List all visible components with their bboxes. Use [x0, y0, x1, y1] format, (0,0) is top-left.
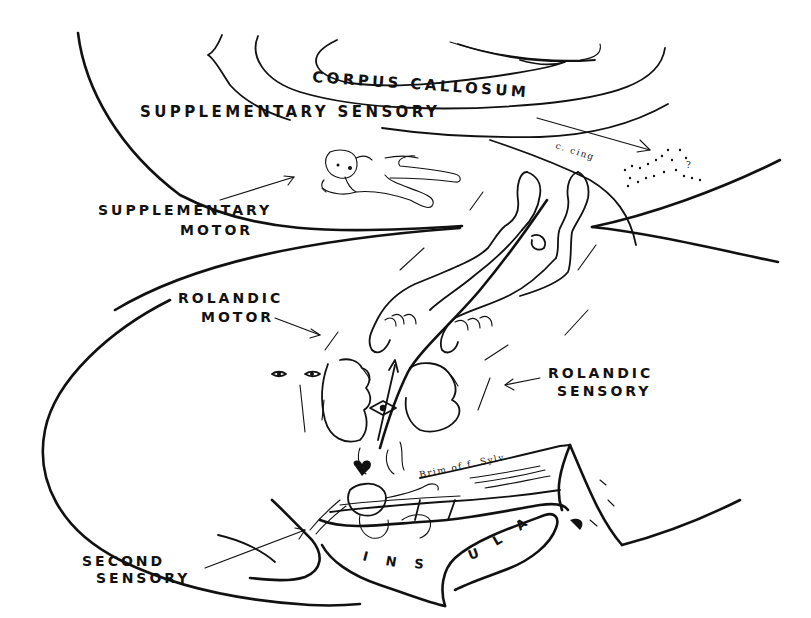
- sylvian-fissure-insula: [218, 445, 740, 606]
- annotation-cingulate: c. cing: [554, 140, 596, 162]
- insula-letter: N: [384, 553, 399, 570]
- rolandic-homunculi: [272, 172, 596, 476]
- label-second-sensory-line1: SECOND: [82, 553, 165, 569]
- rolandic-sensory-arrow: [505, 378, 540, 390]
- label-rolandic-sensory-line1: ROLANDIC: [548, 365, 653, 381]
- insula-letter: A: [513, 514, 532, 533]
- label-second-sensory-line2: SENSORY: [96, 570, 191, 586]
- question-mark: ?: [686, 160, 692, 170]
- insula-letter: I: [361, 548, 371, 564]
- label-insula: I N S U L A: [361, 514, 531, 572]
- supplementary-sensory-arrow: ?: [537, 118, 701, 187]
- label-supplementary-sensory: SUPPLEMENTARY SENSORY: [140, 103, 440, 121]
- label-rolandic-sensory-line2: SENSORY: [557, 383, 652, 399]
- label-rolandic-motor-line1: ROLANDIC: [178, 290, 283, 306]
- insula-letter: L: [490, 530, 506, 548]
- brain-cortex-diagram: ?: [0, 0, 811, 618]
- rolandic-motor-arrow: [275, 318, 320, 338]
- label-rolandic-motor-line2: MOTOR: [201, 309, 274, 325]
- label-corpus-callosum: CORPUS CALLOSUM: [312, 68, 530, 101]
- insula-letter: S: [414, 556, 427, 572]
- supplementary-motor-arrow: [220, 176, 294, 200]
- annotation-sylvian-brim: Brim of f. Sylv.: [418, 451, 509, 480]
- label-supplementary-motor-line1: SUPPLEMENTARY: [98, 202, 272, 218]
- medial-homunculus: [322, 150, 460, 207]
- label-supplementary-motor-line2: MOTOR: [180, 222, 253, 238]
- insula-letter: U: [466, 544, 483, 562]
